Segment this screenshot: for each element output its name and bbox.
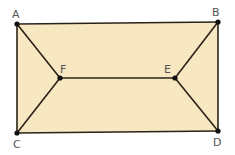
label-c: C [13, 138, 21, 151]
point-a [14, 21, 19, 26]
point-d [215, 128, 220, 133]
point-b [215, 19, 220, 24]
label-d: D [213, 136, 221, 149]
point-c [14, 130, 19, 135]
label-b: B [212, 6, 220, 19]
label-f: F [60, 63, 66, 76]
point-f [57, 75, 62, 80]
label-e: E [164, 63, 171, 76]
label-a: A [12, 8, 20, 21]
geometry-diagram: A B C D E F [0, 0, 235, 155]
point-e [172, 75, 177, 80]
